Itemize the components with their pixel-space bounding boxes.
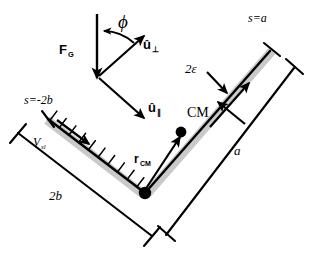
u-par-symbol: û	[148, 100, 156, 115]
center-of-mass-label: CM	[187, 105, 209, 120]
r-cm-symbol: r	[134, 152, 139, 166]
u-par-vector-arrow	[99, 78, 144, 118]
hatch-tick	[98, 148, 105, 157]
rod-centreline-group	[48, 51, 270, 193]
force-gravity-symbol: F	[59, 42, 67, 57]
force-gravity-label: F G	[59, 42, 74, 59]
v-slide-label: V sl	[33, 135, 46, 151]
r-cm-subscript: CM	[140, 160, 151, 167]
physics-diagram-svg: ϕ F G û ⊥ û ∥ CM r CM s=a s=-2b 2ε a 2b …	[0, 0, 316, 253]
rod-band-group	[47, 51, 272, 194]
rod-line-left	[48, 119, 145, 193]
phi-label: ϕ	[118, 11, 128, 32]
bracket-2b-cap-start	[10, 124, 26, 143]
r-cm-label: r CM	[134, 152, 151, 167]
u-par-subscript: ∥	[157, 108, 161, 117]
figure-root: ϕ F G û ⊥ û ∥ CM r CM s=a s=-2b 2ε a 2b …	[0, 0, 316, 253]
u-perp-label: û ⊥	[143, 37, 159, 54]
u-perp-vector-arrow	[99, 36, 144, 76]
hatch-tick	[108, 156, 115, 165]
phi-angle-arc	[104, 31, 134, 43]
s-equals-a-label: s=a	[248, 11, 267, 25]
length-2b-label: 2b	[49, 188, 63, 203]
hatch-tick	[118, 163, 125, 172]
force-gravity-subscript: G	[68, 50, 74, 59]
hatch-tick	[127, 170, 134, 179]
u-par-label: û ∥	[148, 100, 161, 117]
two-epsilon-pointer-arrow	[207, 72, 227, 93]
u-perp-symbol: û	[143, 37, 151, 52]
left-arm-hatch-group	[50, 111, 144, 187]
bracket-a-cap-start	[286, 59, 303, 74]
length-a-label: a	[234, 143, 241, 158]
two-epsilon-label: 2ε	[185, 61, 198, 76]
s-equals-minus-2b-label: s=-2b	[24, 93, 53, 107]
hatch-tick	[50, 111, 57, 120]
hatch-tick	[137, 178, 144, 187]
v-slide-subscript: sl	[41, 143, 46, 151]
right-arm-direction-arrow	[210, 83, 249, 127]
rod-band-left	[47, 120, 143, 194]
u-perp-subscript: ⊥	[152, 45, 159, 54]
bracket-2b-cap-end	[144, 227, 160, 246]
center-of-mass-dot	[176, 127, 187, 138]
hatch-tick	[88, 141, 95, 150]
